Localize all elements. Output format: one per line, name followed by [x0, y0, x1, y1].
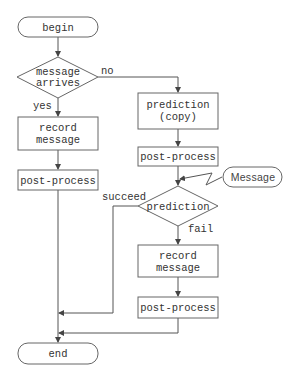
node-begin: begin [18, 17, 98, 37]
post-left-label: post-process [20, 175, 96, 187]
prediction-copy-line1: prediction [146, 99, 209, 111]
begin-label: begin [42, 22, 74, 34]
edge-label-succeed: succeed [102, 191, 146, 203]
edge-label-yes: yes [33, 100, 52, 112]
flowchart: begin message arrives no yes record mess… [0, 0, 297, 380]
post-right2-label: post-process [140, 302, 216, 314]
edge-label-fail: fail [188, 223, 213, 235]
decision-label-line2: arrives [36, 77, 80, 89]
edge-label-no: no [101, 65, 114, 77]
flowchart-svg: begin message arrives no yes record mess… [0, 0, 297, 380]
record-right-line1: record [159, 250, 197, 262]
prediction-label: prediction [146, 201, 209, 213]
message-event-label: Message [231, 171, 276, 183]
edge-no [98, 77, 178, 92]
node-prediction-copy: prediction (copy) [138, 93, 218, 129]
node-record-message-left: record message [18, 117, 98, 150]
node-message-event: Message [223, 167, 282, 187]
node-post-process-right-1: post-process [138, 147, 218, 166]
decision-prediction: prediction [138, 186, 218, 226]
decision-message-arrives: message arrives [17, 57, 98, 98]
node-record-message-right: record message [138, 245, 218, 277]
record-left-line1: record [39, 122, 77, 134]
post-right1-label: post-process [140, 151, 216, 163]
node-post-process-left: post-process [18, 170, 98, 190]
prediction-copy-line2: (copy) [159, 111, 197, 123]
record-left-line2: message [36, 134, 80, 146]
end-label: end [49, 348, 68, 360]
edge-post-right-to-end [59, 318, 178, 333]
edge-succeed [59, 206, 138, 313]
node-end: end [18, 343, 98, 364]
message-event-lightning [180, 173, 222, 185]
node-post-process-right-2: post-process [138, 297, 218, 318]
record-right-line2: message [156, 262, 200, 274]
